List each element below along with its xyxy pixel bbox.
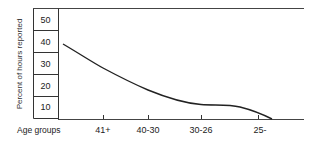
data-curve (63, 44, 272, 119)
x-axis-title: Age groups (17, 125, 60, 135)
x-label-41-plus: 41+ (95, 125, 110, 135)
y-label-40: 40 (33, 37, 58, 47)
x-ticks (104, 115, 259, 119)
x-label-30-26: 30-26 (189, 125, 212, 135)
y-label-30: 30 (33, 59, 58, 69)
x-label-25-minus: 25- (253, 125, 266, 135)
y-label-10: 10 (33, 102, 58, 112)
y-label-50: 50 (33, 15, 58, 25)
y-axis-title: Percent of hours reported (15, 19, 24, 110)
x-label-40-30: 40-30 (136, 125, 159, 135)
y-label-20: 20 (33, 81, 58, 91)
